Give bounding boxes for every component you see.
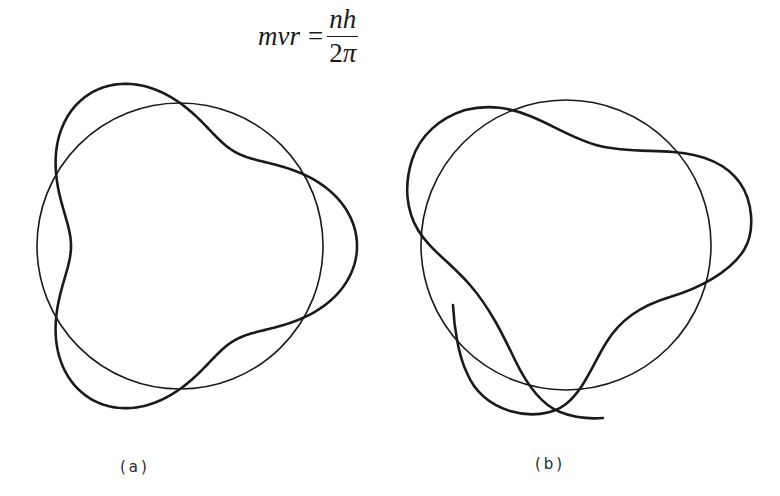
figure-a: [37, 84, 357, 408]
non-closing-wave-b: [407, 107, 751, 418]
standing-wave-a: [56, 84, 357, 408]
figure-b: [407, 100, 751, 418]
orbit-circle-b: [421, 100, 711, 390]
electron-wave-diagrams: [0, 0, 780, 496]
orbit-circle-a: [37, 103, 323, 389]
figure-a-caption: (a): [120, 458, 150, 476]
figure-b-caption: (b): [535, 455, 565, 473]
